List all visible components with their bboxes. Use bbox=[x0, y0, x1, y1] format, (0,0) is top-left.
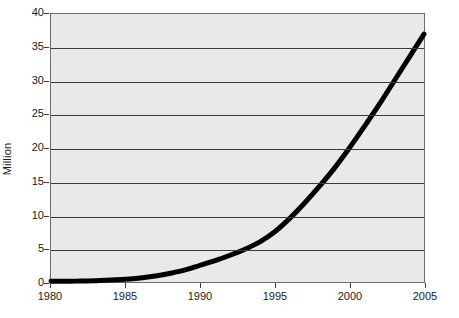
y-tick-mark-40 bbox=[44, 13, 49, 14]
gridline-y-10 bbox=[51, 217, 424, 218]
series-line-chart bbox=[51, 14, 424, 282]
x-tick-mark-1980 bbox=[50, 283, 51, 288]
gridline-y-20 bbox=[51, 149, 424, 150]
y-tick-label-25: 25 bbox=[0, 107, 44, 119]
gridline-y-35 bbox=[51, 48, 424, 49]
y-tick-label-35: 35 bbox=[0, 40, 44, 52]
y-tick-mark-30 bbox=[44, 81, 49, 82]
gridline-y-15 bbox=[51, 183, 424, 184]
y-tick-label-10: 10 bbox=[0, 209, 44, 221]
chart-container: Million 0510152025303540 198019851990199… bbox=[0, 0, 459, 318]
y-axis-ticks: 0510152025303540 bbox=[0, 13, 44, 283]
y-tick-mark-20 bbox=[44, 148, 49, 149]
y-tick-label-20: 20 bbox=[0, 141, 44, 153]
gridline-y-5 bbox=[51, 250, 424, 251]
y-tick-mark-25 bbox=[44, 114, 49, 115]
y-tick-label-40: 40 bbox=[0, 6, 44, 18]
x-tick-mark-2000 bbox=[350, 283, 351, 288]
x-tick-mark-1990 bbox=[200, 283, 201, 288]
series-path-million bbox=[51, 34, 424, 281]
x-tick-label-1980: 1980 bbox=[20, 290, 80, 302]
x-tick-label-1985: 1985 bbox=[95, 290, 155, 302]
x-tick-mark-2005 bbox=[425, 283, 426, 288]
x-tick-label-1990: 1990 bbox=[170, 290, 230, 302]
gridline-y-25 bbox=[51, 115, 424, 116]
x-tick-label-1995: 1995 bbox=[245, 290, 305, 302]
y-tick-mark-15 bbox=[44, 182, 49, 183]
y-tick-label-0: 0 bbox=[0, 276, 44, 288]
x-tick-mark-1995 bbox=[275, 283, 276, 288]
x-tick-label-2000: 2000 bbox=[320, 290, 380, 302]
y-tick-mark-10 bbox=[44, 216, 49, 217]
plot-area bbox=[50, 13, 425, 283]
y-tick-mark-5 bbox=[44, 249, 49, 250]
y-tick-label-15: 15 bbox=[0, 175, 44, 187]
x-tick-label-2005: 2005 bbox=[395, 290, 455, 302]
y-tick-mark-0 bbox=[44, 283, 49, 284]
x-tick-mark-1985 bbox=[125, 283, 126, 288]
gridline-y-30 bbox=[51, 82, 424, 83]
x-axis-ticks: 198019851990199520002005 bbox=[50, 283, 425, 313]
y-tick-label-5: 5 bbox=[0, 242, 44, 254]
y-tick-mark-35 bbox=[44, 47, 49, 48]
y-tick-label-30: 30 bbox=[0, 74, 44, 86]
